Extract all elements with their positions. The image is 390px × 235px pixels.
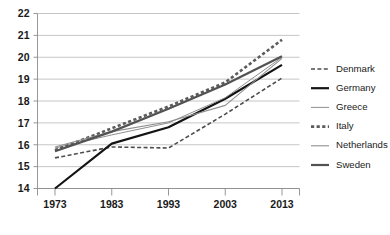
series-line-netherlands	[55, 58, 282, 147]
y-tick-label-22: 22	[18, 7, 30, 19]
y-tick-label-14: 14	[18, 182, 30, 194]
y-tick-label-18: 18	[18, 95, 30, 107]
chart-legend: DenmarkGermanyGreeceItalyNetherlandsSwed…	[311, 63, 388, 170]
x-tick-label-2003: 2003	[214, 198, 238, 210]
y-tick-label-16: 16	[18, 139, 30, 151]
x-tick-label-2013: 2013	[270, 198, 294, 210]
y-tick-label-20: 20	[18, 51, 30, 63]
x-axis-tick-labels: 19731983199320032013	[43, 198, 294, 210]
y-tick-label-21: 21	[18, 29, 30, 41]
legend-label-sweden: Sweden	[336, 159, 371, 170]
legend-label-denmark: Denmark	[336, 63, 375, 74]
series-line-denmark	[55, 78, 282, 158]
y-tick-label-19: 19	[18, 73, 30, 85]
series-line-greece	[55, 57, 282, 148]
gridlines	[38, 14, 300, 189]
line-chart: 141516171819202122 19731983199320032013 …	[0, 0, 390, 235]
x-tick-label-1973: 1973	[43, 198, 67, 210]
y-axis-tick-labels: 141516171819202122	[18, 7, 30, 194]
series-line-italy	[55, 40, 282, 150]
y-tick-label-15: 15	[18, 160, 30, 172]
y-tick-label-17: 17	[18, 117, 30, 129]
legend-label-netherlands: Netherlands	[336, 139, 388, 150]
series-line-germany	[55, 65, 282, 189]
data-series-group	[55, 40, 282, 189]
chart-canvas: 141516171819202122 19731983199320032013 …	[0, 0, 390, 235]
axes	[34, 14, 300, 196]
legend-label-germany: Germany	[336, 82, 376, 93]
x-tick-label-1993: 1993	[157, 198, 181, 210]
x-tick-label-1983: 1983	[100, 198, 124, 210]
legend-label-greece: Greece	[336, 101, 367, 112]
legend-label-italy: Italy	[336, 120, 354, 131]
